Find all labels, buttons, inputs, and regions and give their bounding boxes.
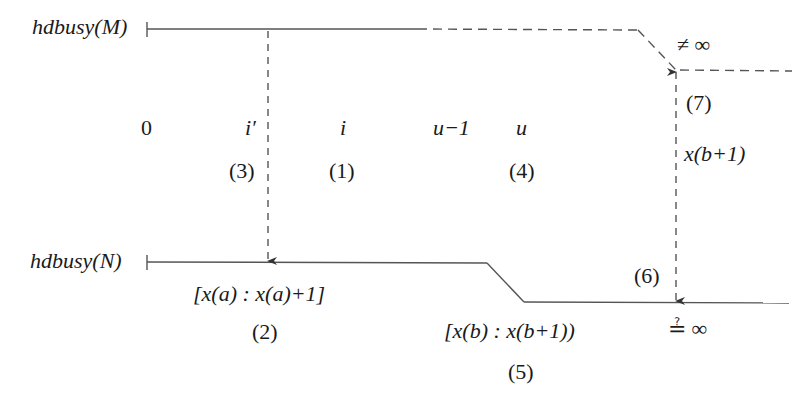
step-1-label: (1) <box>329 160 355 182</box>
step-2-label: (2) <box>252 321 278 343</box>
step-6-label: (6) <box>634 265 660 287</box>
maybe-infinity-label: ≟ ∞ <box>668 318 707 340</box>
position-0: 0 <box>141 117 152 139</box>
row-label-m: hdbusy(M) <box>32 16 127 38</box>
interval-b: [x(b) : x(b+1)) <box>444 320 575 342</box>
position-u-minus-1: u−1 <box>433 117 470 139</box>
not-infinity-label: ≠ ∞ <box>677 34 710 56</box>
step-7-label: (7) <box>686 92 712 114</box>
position-i-prime: i′ <box>245 117 256 139</box>
interval-a: [x(a) : x(a)+1] <box>193 283 325 305</box>
position-u: u <box>516 117 527 139</box>
row-label-n: hdbusy(N) <box>30 250 122 272</box>
step-5-label: (5) <box>508 361 534 383</box>
step-3-label: (3) <box>229 160 255 182</box>
diagram-canvas <box>0 0 811 406</box>
x-b-plus-1-label: x(b+1) <box>684 143 745 165</box>
position-i: i <box>340 117 346 139</box>
step-4-label: (4) <box>509 160 535 182</box>
